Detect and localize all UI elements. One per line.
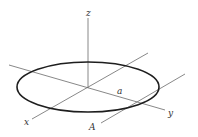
x-axis-line — [32, 53, 148, 119]
x-axis-label: x — [24, 117, 29, 127]
radius-label: a — [117, 86, 122, 96]
loop-diagram: z x y a A — [0, 0, 198, 137]
diagram-canvas: z x y a A — [0, 0, 198, 137]
y-axis-label: y — [167, 108, 174, 118]
z-axis-label: z — [85, 8, 91, 18]
point-a-label: A — [88, 122, 96, 132]
